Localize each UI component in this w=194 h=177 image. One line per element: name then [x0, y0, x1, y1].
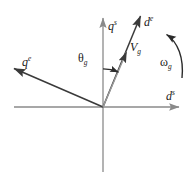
label-d-stator-sup: s	[172, 88, 175, 97]
label-d-stator-axis: ds	[166, 89, 175, 102]
label-d-rotor-axis: de	[144, 15, 153, 28]
label-voltage-vector: Vg	[130, 41, 141, 56]
label-theta-angle: θg	[78, 52, 87, 67]
theta-angle-arc	[103, 69, 119, 72]
label-q-stator-axis: qs	[108, 19, 117, 32]
label-q-stator-sup: s	[114, 18, 117, 27]
label-theta-sub: g	[84, 58, 88, 67]
label-omega-rotation: ωg	[160, 56, 172, 71]
label-q-rotor-axis: qe	[22, 55, 31, 68]
diagram-canvas	[0, 0, 194, 177]
vector-diagram-figure: qs ds qe de Vg θg ωg	[0, 0, 194, 177]
label-omega-base: ω	[160, 55, 168, 69]
label-omega-sub: g	[168, 62, 172, 71]
q-rotor-axis-vector	[14, 69, 103, 108]
voltage-vector-line	[103, 52, 127, 107]
label-d-rotor-sup: e	[150, 14, 153, 23]
label-q-rotor-sup: e	[28, 54, 31, 63]
label-voltage-sub: g	[137, 47, 141, 56]
